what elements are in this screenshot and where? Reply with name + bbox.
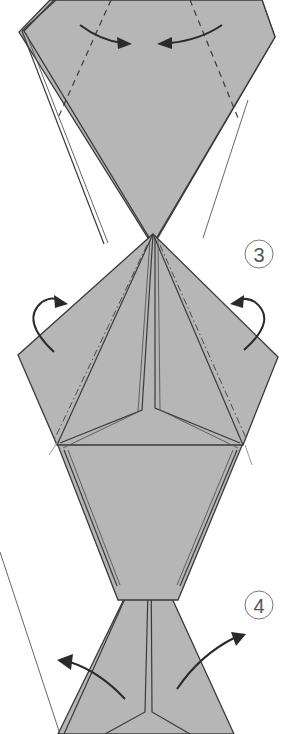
step-3-figure	[18, 234, 278, 600]
step-2-paper-front	[24, 0, 275, 244]
guide-tick-right	[245, 445, 252, 465]
guide-tick-left	[49, 443, 57, 455]
step-4-number: 4	[253, 595, 264, 617]
origami-diagram: 3 4	[0, 0, 292, 734]
step-2-figure	[19, 0, 275, 246]
step-4-layer-edge	[0, 552, 60, 734]
step-3-number: 3	[253, 244, 264, 266]
step-3-badge: 3	[245, 240, 273, 268]
step-3-tail	[57, 443, 243, 600]
step-4-badge: 4	[245, 591, 273, 619]
